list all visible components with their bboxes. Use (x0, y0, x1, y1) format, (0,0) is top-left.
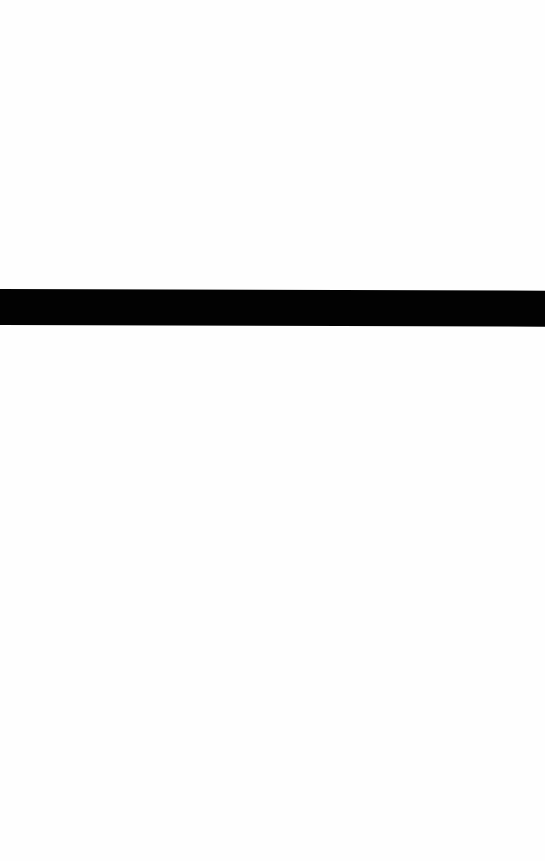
blank-page (0, 0, 545, 861)
black-horizontal-bar (0, 289, 545, 327)
